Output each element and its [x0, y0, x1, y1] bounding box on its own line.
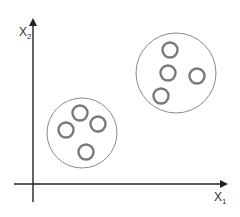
- cluster-1: [47, 98, 117, 168]
- data-point: [91, 117, 106, 132]
- x-axis-label: X1: [214, 190, 227, 206]
- data-point: [161, 66, 176, 81]
- data-point: [154, 89, 169, 104]
- data-point: [73, 106, 88, 121]
- data-point: [190, 69, 205, 84]
- y-axis-label: X2: [19, 25, 32, 41]
- cluster-diagram: X2 X1: [0, 0, 240, 217]
- data-point: [163, 43, 178, 58]
- clusters: [47, 33, 216, 168]
- cluster-2: [136, 33, 216, 113]
- data-point: [79, 145, 94, 160]
- data-point: [59, 123, 74, 138]
